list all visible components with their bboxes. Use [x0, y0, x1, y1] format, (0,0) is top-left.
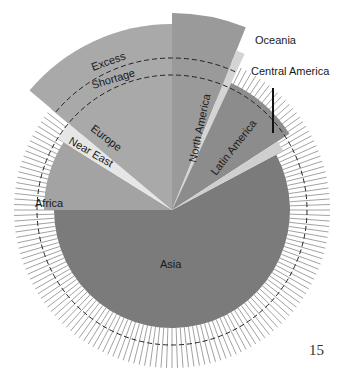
label-central-america: Central America [251, 65, 330, 77]
radial-chart: Excess Shortage Europe Near East Africa … [0, 0, 346, 379]
wedges [30, 13, 290, 328]
label-asia: Asia [160, 258, 182, 270]
page-number: 15 [309, 342, 324, 359]
label-oceania: Oceania [255, 34, 297, 46]
label-africa: Africa [35, 197, 64, 209]
